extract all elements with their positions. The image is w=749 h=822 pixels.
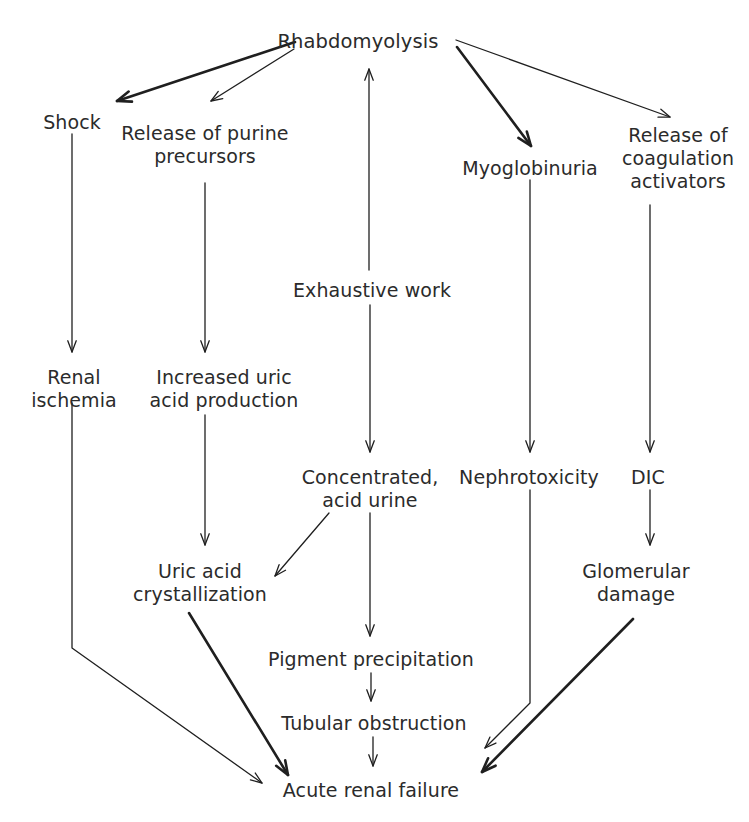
arrowhead-icon [68, 341, 76, 352]
node-concentrated-acid-urine: Concentrated, acid urine [302, 466, 439, 512]
arrowhead-icon [482, 758, 496, 772]
node-release-coagulation-activators: Release of coagulation activators [622, 124, 734, 194]
edge-tubular-obstruction-to-acute-renal-failure [369, 737, 377, 766]
arrowhead-icon [658, 109, 670, 117]
flowchart-canvas: RhabdomyolysisShockRelease of purine pre… [0, 0, 749, 822]
edge-exhaustive-work-to-concentrated-acid-urine [366, 305, 374, 452]
arrowhead-icon [518, 132, 531, 146]
edge-rhabdomyolysis-to-myoglobinuria [457, 47, 531, 146]
edge-concentrated-acid-urine-to-pigment-precipitation [366, 513, 374, 636]
arrowhead-icon [201, 534, 209, 545]
arrowhead-icon [201, 341, 209, 352]
arrowhead-icon [646, 441, 654, 452]
node-pigment-precipitation: Pigment precipitation [268, 648, 474, 671]
arrowhead-icon [646, 534, 654, 545]
arrowhead-icon [485, 737, 496, 748]
node-glomerular-damage: Glomerular damage [582, 560, 689, 606]
edge-concentrated-acid-urine-to-uric-acid-crystallization [275, 513, 329, 576]
node-exhaustive-work: Exhaustive work [293, 279, 451, 302]
edge-release-purine-precursors-to-increased-uric-acid-production [201, 183, 209, 352]
node-increased-uric-acid-production: Increased uric acid production [150, 366, 299, 412]
edge-rhabdomyolysis-to-release-purine-precursors [211, 49, 294, 101]
node-acute-renal-failure: Acute renal failure [283, 779, 459, 802]
edge-exhaustive-work-to-rhabdomyolysis [365, 69, 373, 270]
edge-pigment-precipitation-to-tubular-obstruction [367, 673, 375, 701]
arrowhead-icon [250, 773, 262, 783]
node-uric-acid-crystallization: Uric acid crystallization [133, 560, 267, 606]
edge-increased-uric-acid-production-to-uric-acid-crystallization [201, 415, 209, 545]
node-myoglobinuria: Myoglobinuria [462, 157, 598, 180]
edge-rhabdomyolysis-to-release-coagulation-activators [456, 40, 670, 117]
arrowhead-icon [365, 69, 373, 80]
node-nephrotoxicity: Nephrotoxicity [459, 466, 599, 489]
edge-uric-acid-crystallization-to-acute-renal-failure [189, 613, 288, 775]
node-renal-ischemia: Renal ischemia [31, 366, 117, 412]
edge-rhabdomyolysis-to-shock [117, 42, 295, 102]
node-dic: DIC [631, 466, 665, 489]
edge-glomerular-damage-to-acute-renal-failure [482, 619, 633, 772]
edge-nephrotoxicity-to-acute-renal-failure [485, 490, 530, 748]
edge-dic-to-glomerular-damage [646, 490, 654, 545]
arrowhead-icon [117, 92, 132, 102]
arrowhead-icon [366, 441, 374, 452]
arrowhead-icon [366, 625, 374, 636]
node-shock: Shock [43, 111, 101, 134]
node-rhabdomyolysis: Rhabdomyolysis [277, 30, 438, 54]
node-release-purine-precursors: Release of purine precursors [121, 122, 288, 168]
arrowhead-icon [367, 690, 375, 701]
node-tubular-obstruction: Tubular obstruction [281, 712, 466, 735]
arrowhead-icon [526, 441, 534, 452]
arrowhead-icon [369, 755, 377, 766]
arrowhead-icon [275, 565, 286, 576]
edge-shock-to-renal-ischemia [68, 134, 76, 352]
edge-myoglobinuria-to-nephrotoxicity [526, 180, 534, 452]
arrowhead-icon [211, 91, 223, 101]
arrowhead-icon [276, 760, 288, 775]
edge-release-coagulation-activators-to-dic [646, 205, 654, 452]
